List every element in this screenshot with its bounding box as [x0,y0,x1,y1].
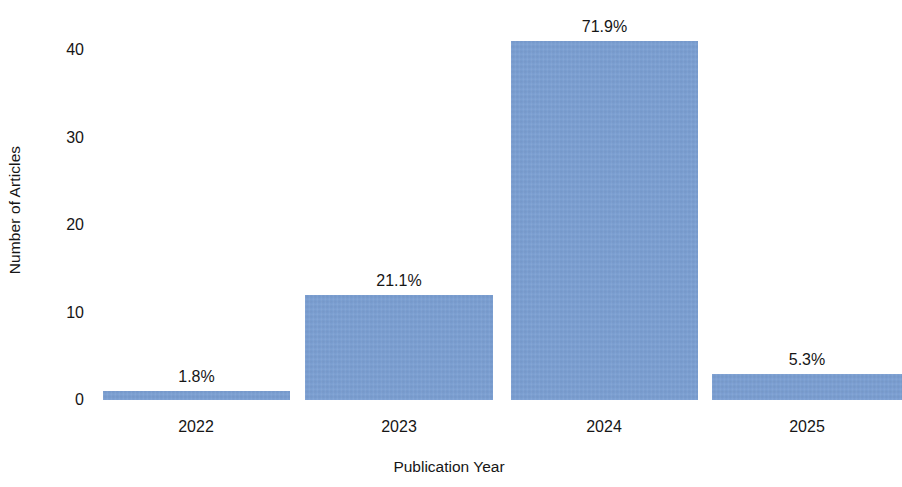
y-axis-tick-30: 30 [30,129,84,147]
bar-value-label-2025: 5.3% [712,351,902,369]
bar-value-label-2023: 21.1% [305,272,493,290]
x-axis-tick-labels: 2022202320242025 [96,418,898,446]
y-axis-tick-10: 10 [30,304,84,322]
y-axis-tick-20: 20 [30,216,84,234]
y-axis-tick-0: 0 [30,391,84,409]
bar-group-2023[interactable]: 21.1% [305,0,493,400]
bar-group-2024[interactable]: 71.9% [511,0,698,400]
y-axis-tick-labels: 010203040 [22,0,84,487]
bar-2024[interactable] [511,41,698,400]
x-axis-title: Publication Year [0,458,898,476]
bar-2023[interactable] [305,295,493,400]
bar-2022[interactable] [103,391,290,400]
x-axis-tick-2025: 2025 [789,418,825,436]
x-axis-tick-2024: 2024 [586,418,622,436]
x-axis-tick-2022: 2022 [178,418,214,436]
bar-group-2025[interactable]: 5.3% [712,0,902,400]
bar-value-label-2022: 1.8% [103,368,290,386]
bar-2025[interactable] [712,374,902,400]
bar-group-2022[interactable]: 1.8% [103,0,290,400]
y-axis-tick-40: 40 [30,41,84,59]
plot-area: 1.8%21.1%71.9%5.3% [96,0,898,400]
x-axis-tick-2023: 2023 [381,418,417,436]
bar-value-label-2024: 71.9% [511,18,698,36]
